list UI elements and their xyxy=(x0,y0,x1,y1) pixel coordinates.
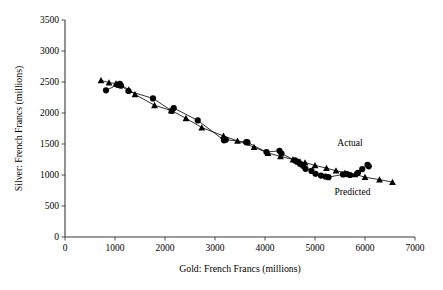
data-point-actual xyxy=(103,87,109,93)
y-tick-label: 2500 xyxy=(40,77,59,87)
y-tick-label: 1500 xyxy=(40,139,59,149)
y-tick-label: 0 xyxy=(54,232,59,242)
chart-figure: 0500100015002000250030003500010002000300… xyxy=(0,0,443,290)
annotation-actual: Actual xyxy=(337,138,363,148)
x-tick-label: 2000 xyxy=(156,243,175,253)
y-tick-label: 2000 xyxy=(40,108,59,118)
y-tick-label: 3000 xyxy=(40,46,59,56)
data-point-actual xyxy=(302,166,308,172)
x-axis-title: Gold: French Francs (millions) xyxy=(179,263,301,275)
data-point-actual xyxy=(325,174,331,180)
x-tick-label: 1000 xyxy=(106,243,125,253)
data-point-predicted xyxy=(220,133,227,139)
x-tick-label: 0 xyxy=(63,243,68,253)
series-line-actual xyxy=(106,84,369,177)
y-axis-title: Silver: French Francs (millions) xyxy=(13,66,25,191)
data-point-actual xyxy=(366,163,372,169)
data-point-actual xyxy=(195,117,201,123)
x-tick-label: 5000 xyxy=(306,243,325,253)
data-point-actual xyxy=(312,171,318,177)
data-point-actual xyxy=(359,166,365,172)
x-tick-label: 7000 xyxy=(406,243,425,253)
data-point-predicted xyxy=(98,77,105,83)
data-point-actual xyxy=(150,95,156,101)
y-tick-label: 500 xyxy=(45,201,60,211)
x-tick-label: 6000 xyxy=(356,243,375,253)
y-tick-label: 3500 xyxy=(40,15,59,25)
x-tick-label: 3000 xyxy=(206,243,225,253)
scatter-plot: 0500100015002000250030003500010002000300… xyxy=(0,0,443,290)
data-point-predicted xyxy=(151,102,158,108)
x-tick-label: 4000 xyxy=(256,243,275,253)
y-tick-label: 1000 xyxy=(40,170,59,180)
annotation-predicted: Predicted xyxy=(335,187,371,197)
